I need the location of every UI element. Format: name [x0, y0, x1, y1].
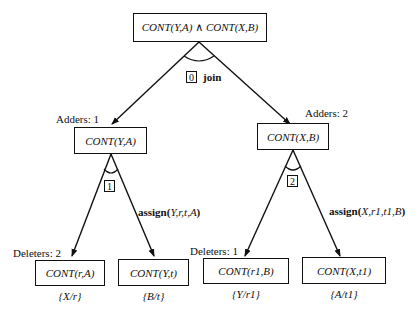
binding-x-r: {X/r} — [35, 290, 105, 302]
binding-a-t1: {A/t1} — [302, 288, 386, 300]
node-cont-y-a: CONT(Y,A) — [74, 127, 147, 154]
node-cont-r1-b: CONT(r1,B) — [203, 258, 289, 284]
root-node: CONT(Y,A) ∧ CONT(X,B) — [133, 13, 267, 42]
assign-label-left: assign(Y,r,t,A) — [138, 206, 200, 218]
deleters-label-right: Deleters: 1 — [190, 245, 238, 257]
assign-label-right: assign(X,r1,t1,B) — [329, 205, 405, 217]
node-cont-r-a: CONT(r,A) — [35, 260, 105, 286]
node-cont-y-t: CONT(Y,t) — [118, 259, 189, 286]
root-node-label: CONT(Y,A) ∧ CONT(X,B) — [142, 21, 258, 34]
op-join-label: join — [203, 71, 221, 83]
node-cont-x-b: CONT(X,B) — [257, 123, 329, 150]
deleters-label-left: Deleters: 2 — [13, 247, 61, 259]
binding-b-t: {B/t} — [118, 290, 189, 302]
adders-label-right: Adders: 2 — [305, 107, 348, 119]
op-index-badge-1: 1 — [104, 180, 115, 192]
op-index-badge-0: 0 — [186, 71, 197, 83]
binding-y-r1: {Y/r1} — [203, 288, 289, 300]
op-index-badge-2: 2 — [287, 175, 298, 187]
node-cont-x-t1: CONT(X,t1) — [302, 257, 386, 284]
adders-label-left: Adders: 1 — [56, 113, 99, 125]
